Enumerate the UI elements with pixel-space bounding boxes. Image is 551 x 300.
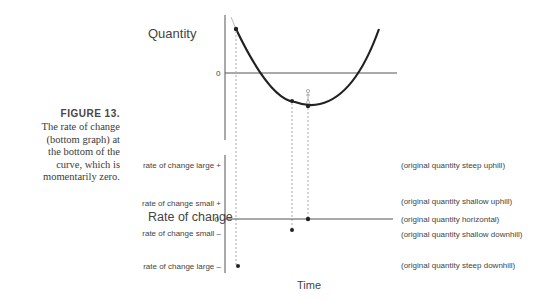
label-steep-downhill: (original quantity steep downhill) bbox=[401, 261, 516, 270]
rate-of-change-label: Rate of change bbox=[148, 210, 233, 224]
dashed-guides bbox=[236, 31, 308, 266]
curve-point bbox=[306, 104, 310, 108]
label-shallow-downhill: (original quantity shallow downhill) bbox=[401, 230, 523, 239]
top-graph: Quantity 0 bbox=[148, 15, 397, 140]
walker-icon bbox=[306, 89, 310, 104]
quantity-curve bbox=[236, 29, 379, 105]
label-shallow-uphill: (original quantity shallow uphill) bbox=[401, 197, 513, 206]
time-label: Time bbox=[297, 279, 321, 291]
label-steep-uphill: (original quantity steep uphill) bbox=[401, 161, 505, 170]
label-small-positive: rate of change small + bbox=[142, 199, 221, 208]
quantity-label: Quantity bbox=[148, 26, 197, 41]
rate-point bbox=[290, 228, 294, 232]
top-zero-label: 0 bbox=[216, 69, 221, 78]
rate-of-change-diagram: Quantity 0 0 Rate of change rate of chan… bbox=[0, 0, 551, 300]
rate-point bbox=[236, 264, 240, 268]
curve-point bbox=[290, 99, 294, 103]
label-horizontal: (original quantity horizontal) bbox=[401, 215, 500, 224]
label-large-positive: rate of change large + bbox=[143, 161, 221, 170]
label-small-negative: rate of change small – bbox=[142, 229, 221, 238]
label-large-negative: rate of change large – bbox=[143, 262, 221, 271]
bottom-graph: 0 Rate of change rate of change large + … bbox=[142, 155, 523, 291]
rate-point bbox=[306, 217, 310, 221]
curve-point bbox=[234, 27, 238, 31]
